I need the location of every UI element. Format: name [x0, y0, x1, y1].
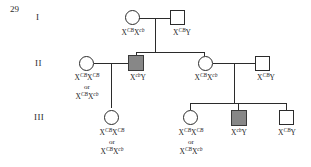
individual-ii-4-male[interactable] — [255, 56, 270, 71]
genotype-iii-2: XCBXCB or XCBXcb — [160, 128, 222, 157]
individual-ii-3-female[interactable] — [198, 56, 213, 71]
sib-stub-iii-2 — [190, 103, 191, 110]
individual-ii-1-female[interactable] — [79, 56, 94, 71]
generation-label-iii: III — [34, 112, 44, 122]
descent-line-gen2-right — [234, 63, 235, 103]
individual-iii-2-female[interactable] — [183, 110, 198, 125]
genotype-ii-3: XCBXcb — [175, 73, 237, 83]
generation-label-i: I — [36, 12, 39, 22]
individual-i-2-male[interactable] — [170, 10, 185, 25]
pedigree-diagram: 29 I II III XCBXcb XCBY XCBXCB or XCBXcb… — [0, 0, 311, 167]
genotype-ii-1: XCBXCB or XCBXcb — [56, 73, 118, 102]
individual-iii-3-male-affected[interactable] — [231, 110, 247, 126]
sibship-line-gen2 — [136, 52, 204, 53]
genotype-i-2: XCBY — [152, 28, 212, 38]
genotype-iii-4: XCBY — [263, 128, 311, 138]
sib-stub-iii-3 — [238, 103, 239, 110]
genotype-ii-4: XCBY — [237, 73, 295, 83]
genotype-iii-3: XcbY — [216, 128, 262, 138]
individual-ii-2-male-affected[interactable] — [128, 55, 144, 71]
individual-iii-4-male[interactable] — [279, 110, 294, 125]
question-number: 29 — [10, 4, 19, 14]
genotype-ii-2: XcbY — [113, 73, 163, 83]
individual-iii-1-female[interactable] — [104, 110, 119, 125]
generation-label-ii: II — [35, 58, 42, 68]
genotype-iii-1: XCBXCB or XCBXcb — [81, 128, 143, 157]
individual-i-1-female[interactable] — [125, 10, 140, 25]
sib-stub-iii-4 — [286, 103, 287, 110]
